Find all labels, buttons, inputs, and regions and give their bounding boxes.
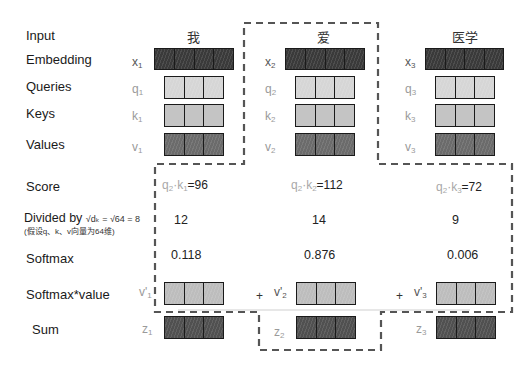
weighted-value-2-label: v'2 bbox=[274, 285, 287, 300]
x3-label: x3 bbox=[405, 55, 415, 70]
row-label-input: Input bbox=[26, 28, 55, 43]
x1-label: x1 bbox=[132, 55, 142, 70]
z2-label: z2 bbox=[274, 325, 284, 340]
row-label-values: Values bbox=[26, 137, 65, 152]
sum-vector-2 bbox=[296, 316, 356, 339]
softmax-1: 0.118 bbox=[171, 248, 201, 262]
embedding-vector-2 bbox=[285, 48, 365, 70]
sum-vector-3 bbox=[436, 316, 496, 339]
value-vector-1 bbox=[164, 133, 224, 156]
softmax-3: 0.006 bbox=[447, 248, 478, 262]
weighted-value-1-label: v'1 bbox=[139, 285, 152, 300]
key-vector-2 bbox=[295, 104, 355, 127]
k1-label: k1 bbox=[132, 109, 142, 124]
plus-sign-1: + bbox=[256, 289, 263, 303]
score-2: q2·k2=112 bbox=[291, 178, 343, 193]
softmax-2: 0.876 bbox=[304, 248, 335, 262]
row-label-score: Score bbox=[26, 179, 60, 194]
divided-note: (假设q、k、v向量为64维) bbox=[24, 225, 115, 236]
query-vector-2 bbox=[295, 76, 355, 99]
divided-formula: √dₖ = √64 = 8 bbox=[86, 214, 140, 224]
divided-1: 12 bbox=[174, 213, 188, 227]
row-label-embedding: Embedding bbox=[26, 52, 92, 67]
k2-label: k2 bbox=[265, 109, 275, 124]
value-vector-3 bbox=[435, 133, 495, 156]
token-yixue: 医学 bbox=[452, 27, 478, 46]
score-3: q2·k3=72 bbox=[436, 180, 482, 195]
v1-label: v1 bbox=[132, 140, 142, 155]
v3-label: v3 bbox=[405, 140, 415, 155]
weighted-value-vector-1 bbox=[164, 282, 224, 305]
row-label-softmax-value: Softmax*value bbox=[26, 287, 110, 302]
sum-vector-1 bbox=[164, 316, 224, 339]
weighted-value-vector-2 bbox=[296, 282, 356, 305]
weighted-value-vector-3 bbox=[436, 282, 496, 305]
divided-2: 14 bbox=[312, 213, 326, 227]
q2-label: q2 bbox=[265, 82, 276, 97]
row-label-queries: Queries bbox=[26, 79, 72, 94]
z1-label: z1 bbox=[142, 322, 152, 337]
q3-label: q3 bbox=[405, 82, 416, 97]
v2-label: v2 bbox=[265, 140, 275, 155]
row-label-divided: Divided by √dₖ = √64 = 8 bbox=[24, 211, 140, 225]
value-vector-2 bbox=[295, 133, 355, 156]
key-vector-1 bbox=[164, 104, 224, 127]
token-wo: 我 bbox=[187, 27, 200, 46]
k3-label: k3 bbox=[405, 109, 415, 124]
z3-label: z3 bbox=[416, 322, 426, 337]
embedding-vector-1 bbox=[154, 48, 234, 70]
embedding-vector-3 bbox=[425, 48, 504, 70]
score-1: q2·k1=96 bbox=[162, 178, 208, 193]
plus-sign-2: + bbox=[396, 289, 403, 303]
row-label-keys: Keys bbox=[26, 106, 55, 121]
row-label-sum: Sum bbox=[32, 322, 59, 337]
query-vector-3 bbox=[435, 76, 495, 99]
query-vector-1 bbox=[164, 76, 224, 99]
key-vector-3 bbox=[435, 104, 495, 127]
row-label-softmax: Softmax bbox=[26, 251, 74, 266]
token-ai: 爱 bbox=[317, 27, 330, 46]
x2-label: x2 bbox=[265, 55, 275, 70]
divided-3: 9 bbox=[452, 213, 459, 227]
divided-label: Divided by bbox=[24, 211, 82, 225]
q1-label: q1 bbox=[132, 82, 143, 97]
weighted-value-3-label: v'3 bbox=[414, 285, 427, 300]
